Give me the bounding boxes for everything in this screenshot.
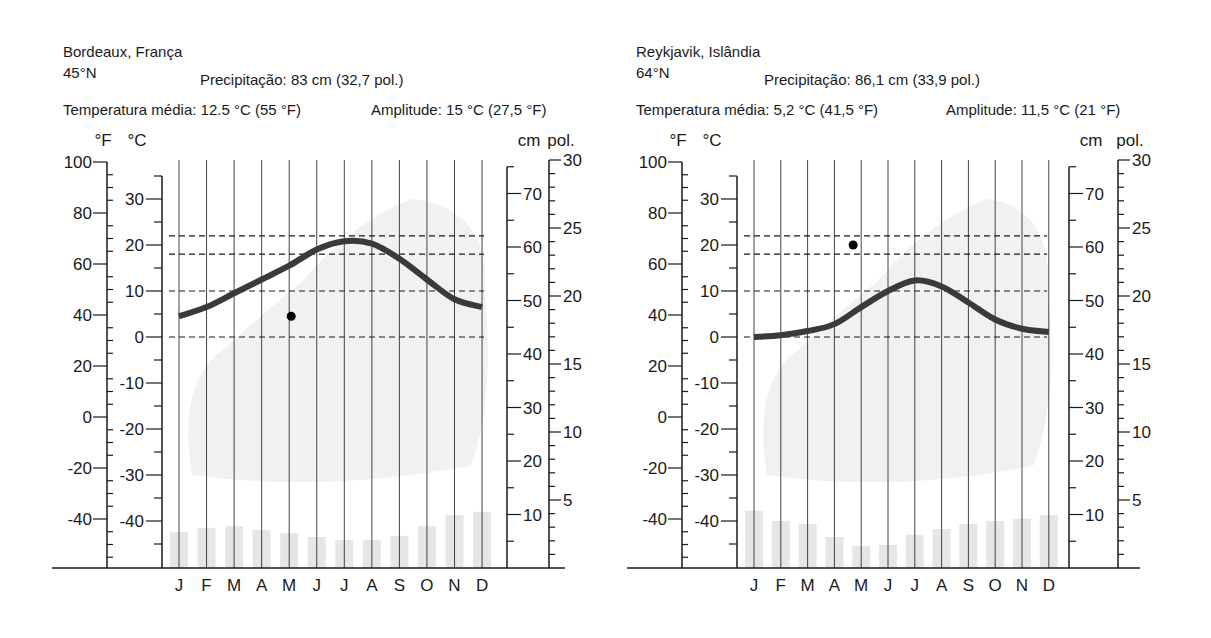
month-label: J bbox=[911, 576, 920, 595]
inches-tick-label: 20 bbox=[1132, 287, 1151, 306]
celsius-axis-label: °C bbox=[127, 131, 146, 150]
inches-tick-label: 5 bbox=[563, 491, 572, 510]
month-label: A bbox=[366, 576, 378, 595]
cm-tick-label: 40 bbox=[1085, 345, 1104, 364]
celsius-tick-label: -20 bbox=[694, 420, 719, 439]
fahrenheit-tick-label: 40 bbox=[73, 306, 92, 325]
month-label: S bbox=[394, 576, 405, 595]
climographs: JFMAMJJASOND100806040200-20-40°F3020100-… bbox=[0, 0, 1211, 638]
inches-tick-label: 10 bbox=[563, 423, 582, 442]
month-label: M bbox=[854, 576, 868, 595]
fahrenheit-tick-label: 40 bbox=[648, 306, 667, 325]
fahrenheit-tick-label: -40 bbox=[642, 510, 667, 529]
climograph-reykjavik: JFMAMJJASOND100806040200-20-40°F3020100-… bbox=[627, 131, 1151, 595]
fahrenheit-tick-label: 20 bbox=[648, 357, 667, 376]
cm-tick-label: 20 bbox=[1085, 452, 1104, 471]
fahrenheit-tick-label: -40 bbox=[67, 510, 92, 529]
inches-tick-label: 25 bbox=[563, 219, 582, 238]
cm-tick-label: 10 bbox=[1085, 506, 1104, 525]
month-label: M bbox=[801, 576, 815, 595]
month-label: S bbox=[963, 576, 974, 595]
fahrenheit-tick-label: 80 bbox=[73, 204, 92, 223]
inches-tick-label: 30 bbox=[1132, 151, 1151, 170]
fahrenheit-tick-label: -20 bbox=[67, 459, 92, 478]
cm-tick-label: 20 bbox=[523, 452, 542, 471]
celsius-tick-label: 10 bbox=[700, 282, 719, 301]
fahrenheit-tick-label: 0 bbox=[83, 408, 92, 427]
cm-tick-label: 70 bbox=[523, 185, 542, 204]
inches-tick-label: 5 bbox=[1132, 491, 1141, 510]
cm-tick-label: 50 bbox=[1085, 292, 1104, 311]
cm-tick-label: 70 bbox=[1085, 185, 1104, 204]
month-label: O bbox=[420, 576, 433, 595]
fahrenheit-tick-label: 100 bbox=[639, 153, 667, 172]
fahrenheit-axis-label: °F bbox=[94, 131, 111, 150]
month-label: D bbox=[476, 576, 488, 595]
fahrenheit-tick-label: 60 bbox=[73, 255, 92, 274]
background-map-shape bbox=[763, 199, 1051, 482]
month-label: M bbox=[227, 576, 241, 595]
month-label: F bbox=[201, 576, 211, 595]
month-label: O bbox=[989, 576, 1002, 595]
month-label: A bbox=[256, 576, 268, 595]
celsius-tick-label: -40 bbox=[119, 512, 144, 531]
celsius-tick-label: 0 bbox=[135, 328, 144, 347]
inches-tick-label: 30 bbox=[563, 151, 582, 170]
cm-tick-label: 10 bbox=[523, 506, 542, 525]
celsius-tick-label: -10 bbox=[119, 374, 144, 393]
celsius-tick-label: -40 bbox=[694, 512, 719, 531]
celsius-tick-label: 30 bbox=[700, 190, 719, 209]
celsius-tick-label: 20 bbox=[125, 236, 144, 255]
month-label: J bbox=[340, 576, 349, 595]
fahrenheit-tick-label: -20 bbox=[642, 459, 667, 478]
cm-tick-label: 50 bbox=[523, 292, 542, 311]
inches-tick-label: 15 bbox=[1132, 355, 1151, 374]
fahrenheit-tick-label: 20 bbox=[73, 357, 92, 376]
month-label: J bbox=[175, 576, 184, 595]
month-label: N bbox=[448, 576, 460, 595]
month-label: J bbox=[313, 576, 322, 595]
month-label: J bbox=[750, 576, 759, 595]
fahrenheit-tick-label: 100 bbox=[64, 153, 92, 172]
celsius-tick-label: 20 bbox=[700, 236, 719, 255]
fahrenheit-tick-label: 60 bbox=[648, 255, 667, 274]
celsius-tick-label: -30 bbox=[694, 466, 719, 485]
celsius-tick-label: 0 bbox=[710, 328, 719, 347]
cm-tick-label: 30 bbox=[523, 399, 542, 418]
month-label: A bbox=[936, 576, 948, 595]
month-label: D bbox=[1043, 576, 1055, 595]
month-label: N bbox=[1016, 576, 1028, 595]
month-label: J bbox=[884, 576, 893, 595]
cm-tick-label: 30 bbox=[1085, 399, 1104, 418]
inches-tick-label: 25 bbox=[1132, 219, 1151, 238]
inches-axis-label: pol. bbox=[1116, 131, 1143, 150]
inches-tick-label: 10 bbox=[1132, 423, 1151, 442]
celsius-tick-label: -20 bbox=[119, 420, 144, 439]
month-label: M bbox=[282, 576, 296, 595]
location-marker-dot bbox=[849, 241, 858, 250]
celsius-tick-label: -30 bbox=[119, 466, 144, 485]
cm-tick-label: 60 bbox=[523, 238, 542, 257]
cm-axis-label: cm bbox=[518, 131, 541, 150]
cm-axis-label: cm bbox=[1080, 131, 1103, 150]
celsius-tick-label: 30 bbox=[125, 190, 144, 209]
location-marker-dot bbox=[287, 312, 296, 321]
cm-tick-label: 60 bbox=[1085, 238, 1104, 257]
inches-axis-label: pol. bbox=[547, 131, 574, 150]
inches-tick-label: 20 bbox=[563, 287, 582, 306]
month-label: F bbox=[776, 576, 786, 595]
cm-tick-label: 40 bbox=[523, 345, 542, 364]
inches-tick-label: 15 bbox=[563, 355, 582, 374]
climograph-bordeaux: JFMAMJJASOND100806040200-20-40°F3020100-… bbox=[52, 131, 582, 595]
celsius-tick-label: 10 bbox=[125, 282, 144, 301]
celsius-tick-label: -10 bbox=[694, 374, 719, 393]
celsius-axis-label: °C bbox=[702, 131, 721, 150]
fahrenheit-tick-label: 80 bbox=[648, 204, 667, 223]
fahrenheit-tick-label: 0 bbox=[658, 408, 667, 427]
fahrenheit-axis-label: °F bbox=[669, 131, 686, 150]
month-label: A bbox=[829, 576, 841, 595]
